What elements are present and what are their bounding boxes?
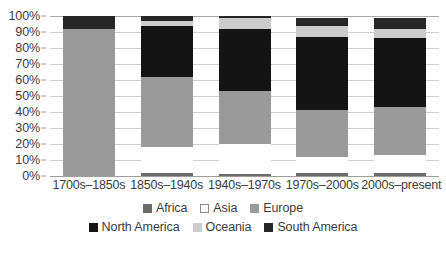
bar-stack[interactable] bbox=[219, 16, 271, 176]
bar-group bbox=[296, 16, 348, 176]
bar-group bbox=[219, 16, 271, 176]
legend-swatch-icon bbox=[200, 204, 209, 213]
bar-stack[interactable] bbox=[374, 16, 426, 176]
bar-segment[interactable] bbox=[296, 157, 348, 173]
y-axis-tick-mark bbox=[41, 80, 46, 81]
bar-segment[interactable] bbox=[219, 144, 271, 174]
legend-swatch-icon bbox=[89, 223, 98, 232]
legend-label: Asia bbox=[213, 202, 237, 215]
y-axis-tick-label: 20% bbox=[15, 138, 40, 151]
legend-label: Europe bbox=[263, 202, 303, 215]
bar-stack[interactable] bbox=[63, 16, 115, 176]
bar-group bbox=[63, 16, 115, 176]
stacked-bar-chart: 0%10%20%30%40%50%60%70%80%90%100% 1700s–… bbox=[0, 0, 446, 256]
y-axis-tick-label: 90% bbox=[15, 26, 40, 39]
bar-segment[interactable] bbox=[141, 173, 193, 176]
y-axis-tick-mark bbox=[41, 176, 46, 177]
y-axis-tick-label: 30% bbox=[15, 122, 40, 135]
bar-segment[interactable] bbox=[141, 147, 193, 173]
y-axis-tick-mark bbox=[41, 32, 46, 33]
y-axis: 0%10%20%30%40%50%60%70%80%90%100% bbox=[0, 16, 46, 176]
bar-segment[interactable] bbox=[374, 18, 426, 29]
bar-segment[interactable] bbox=[141, 26, 193, 77]
y-axis-tick-mark bbox=[41, 128, 46, 129]
y-axis-tick-label: 100% bbox=[8, 10, 40, 23]
y-axis-tick-mark bbox=[41, 64, 46, 65]
chart-legend: AfricaAsiaEuropeNorth AmericaOceaniaSout… bbox=[0, 199, 446, 237]
bar-segment[interactable] bbox=[296, 37, 348, 111]
y-axis-tick-label: 70% bbox=[15, 58, 40, 71]
bar-stack[interactable] bbox=[141, 16, 193, 176]
bar-segment[interactable] bbox=[374, 155, 426, 173]
legend-swatch-icon bbox=[193, 223, 202, 232]
y-axis-tick-label: 80% bbox=[15, 42, 40, 55]
y-axis-tick-mark bbox=[41, 112, 46, 113]
y-axis-tick-label: 10% bbox=[15, 154, 40, 167]
bars-layer bbox=[50, 16, 439, 176]
legend-item[interactable]: North America bbox=[89, 221, 180, 234]
gridline bbox=[50, 176, 439, 177]
bar-segment[interactable] bbox=[219, 16, 271, 18]
bar-segment[interactable] bbox=[63, 29, 115, 176]
legend-swatch-icon bbox=[250, 204, 259, 213]
bar-segment[interactable] bbox=[296, 110, 348, 156]
y-axis-tick-mark bbox=[41, 96, 46, 97]
legend-row: AfricaAsiaEurope bbox=[0, 199, 446, 218]
y-axis-tick-label: 50% bbox=[15, 90, 40, 103]
bar-segment[interactable] bbox=[219, 91, 271, 144]
legend-swatch-icon bbox=[264, 223, 273, 232]
y-axis-tick-label: 60% bbox=[15, 74, 40, 87]
bar-segment[interactable] bbox=[374, 173, 426, 176]
legend-label: South America bbox=[277, 221, 357, 234]
bar-group bbox=[141, 16, 193, 176]
legend-item[interactable]: Asia bbox=[200, 202, 237, 215]
legend-item[interactable]: Oceania bbox=[193, 221, 252, 234]
bar-segment[interactable] bbox=[141, 16, 193, 21]
y-axis-tick-mark bbox=[41, 160, 46, 161]
bar-segment[interactable] bbox=[141, 21, 193, 26]
y-axis-tick-label: 40% bbox=[15, 106, 40, 119]
legend-item[interactable]: Africa bbox=[143, 202, 187, 215]
bar-stack[interactable] bbox=[296, 16, 348, 176]
bar-segment[interactable] bbox=[141, 77, 193, 147]
legend-swatch-icon bbox=[143, 204, 152, 213]
plot-area bbox=[50, 16, 439, 176]
legend-item[interactable]: South America bbox=[264, 221, 357, 234]
bar-segment[interactable] bbox=[374, 38, 426, 107]
bar-segment[interactable] bbox=[219, 18, 271, 29]
bar-segment[interactable] bbox=[374, 29, 426, 39]
bar-group bbox=[374, 16, 426, 176]
x-axis-tick-label: 1700s–1850s bbox=[50, 178, 128, 192]
legend-item[interactable]: Europe bbox=[250, 202, 303, 215]
legend-row: North AmericaOceaniaSouth America bbox=[0, 218, 446, 237]
legend-label: North America bbox=[102, 221, 180, 234]
y-axis-tick-mark bbox=[41, 16, 46, 17]
x-axis: 1700s–1850s1850s–1940s1940s–1970s1970s–2… bbox=[50, 178, 439, 194]
legend-label: Oceania bbox=[206, 221, 252, 234]
bar-segment[interactable] bbox=[219, 29, 271, 91]
bar-segment[interactable] bbox=[219, 174, 271, 176]
legend-label: Africa bbox=[156, 202, 187, 215]
y-axis-tick-mark bbox=[41, 48, 46, 49]
y-axis-tick-label: 0% bbox=[22, 170, 40, 183]
x-axis-tick-label: 1940s–1970s bbox=[206, 178, 284, 192]
plot-wrapper: 0%10%20%30%40%50%60%70%80%90%100% 1700s–… bbox=[0, 0, 446, 192]
x-axis-tick-label: 2000s–present bbox=[361, 178, 439, 192]
bar-segment[interactable] bbox=[374, 107, 426, 155]
x-axis-tick-label: 1850s–1940s bbox=[128, 178, 206, 192]
bar-segment[interactable] bbox=[296, 18, 348, 26]
bar-segment[interactable] bbox=[296, 26, 348, 37]
bar-segment[interactable] bbox=[63, 16, 115, 29]
x-axis-tick-label: 1970s–2000s bbox=[283, 178, 361, 192]
bar-segment[interactable] bbox=[296, 173, 348, 176]
y-axis-tick-mark bbox=[41, 144, 46, 145]
